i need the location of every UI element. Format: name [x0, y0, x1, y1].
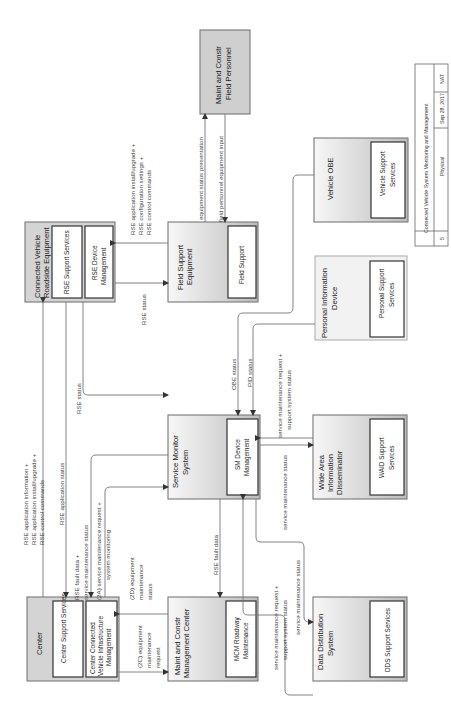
- svg-text:maintenance: maintenance: [137, 564, 144, 600]
- svg-text:Maint and Constr: Maint and Constr: [214, 46, 223, 104]
- svg-text:Personal Information: Personal Information: [320, 268, 329, 338]
- svg-text:support system status: support system status: [281, 600, 288, 660]
- node-rse[interactable]: Connected Vehicle Roadside Equipment RSE…: [25, 222, 115, 302]
- rse-title: Connected Vehicle: [33, 235, 42, 298]
- diagram-title: Connected Vehicle System Monitoring and …: [423, 103, 429, 233]
- rse-title-2: Roadside Equipment: [42, 227, 51, 298]
- node-data-distribution-system[interactable]: Data Distribution System DDS Support Ser…: [313, 597, 407, 681]
- svg-text:DDS Support Services: DDS Support Services: [384, 608, 392, 672]
- title-block: Connected Vehicle System Monitoring and …: [415, 64, 448, 246]
- svg-text:PID status: PID status: [246, 358, 253, 387]
- svg-text:Center Connected: Center Connected: [89, 622, 96, 674]
- svg-text:RSE application install/upgrad: RSE application install/upgrade +: [129, 143, 136, 235]
- svg-text:RSE configuration settings +: RSE configuration settings +: [137, 156, 144, 235]
- svg-text:Center: Center: [35, 632, 44, 655]
- vehicle-support-services[interactable]: [371, 142, 405, 218]
- svg-text:RSE control commands: RSE control commands: [38, 480, 45, 545]
- svg-text:status: status: [146, 583, 153, 600]
- svg-text:request: request: [154, 647, 161, 668]
- svg-text:Information: Information: [326, 454, 335, 492]
- svg-text:RSE application information +: RSE application information +: [22, 463, 29, 545]
- svg-text:RSE application status: RSE application status: [58, 463, 65, 525]
- svg-text:RSE control commands: RSE control commands: [145, 170, 152, 235]
- svg-text:System: System: [181, 450, 190, 475]
- svg-text:Wide Area: Wide Area: [317, 454, 326, 490]
- svg-text:service maintenance request +: service maintenance request +: [272, 585, 279, 670]
- architecture-diagram: Connected Vehicle Roadside Equipment RSE…: [0, 0, 451, 724]
- svg-text:Data Distribution: Data Distribution: [316, 614, 325, 670]
- waid-support-services[interactable]: [370, 419, 404, 495]
- svg-text:RSE fault data +: RSE fault data +: [73, 554, 80, 600]
- svg-text:RSE Support Services: RSE Support Services: [63, 230, 71, 294]
- svg-text:service maintenance status: service maintenance status: [281, 455, 288, 530]
- node-field-support-equipment[interactable]: Field Support Equipment Field Support: [168, 222, 258, 302]
- svg-text:RSE application install/upgrad: RSE application install/upgrade +: [30, 453, 37, 545]
- svg-text:RSE Device: RSE Device: [91, 245, 98, 280]
- svg-text:System: System: [326, 631, 335, 656]
- svg-text:Services: Services: [388, 445, 395, 470]
- svg-text:Management: Management: [243, 438, 251, 476]
- svg-text:Field Support: Field Support: [238, 246, 246, 284]
- svg-text:WAID Support: WAID Support: [378, 437, 386, 478]
- node-mcm[interactable]: Maint and Constr Management Center MCM R…: [168, 597, 258, 681]
- svg-text:MCM Roadway: MCM Roadway: [233, 617, 241, 661]
- node-center[interactable]: Center Center Support Services Center Su…: [27, 593, 119, 681]
- node-field-personnel[interactable]: Maint and Constr Field Personnel: [200, 30, 250, 114]
- svg-text:field personnel equipment inpu: field personnel equipment input: [217, 136, 224, 222]
- svg-text:RSE status: RSE status: [75, 383, 82, 414]
- svg-text:(2A) service maintenance reque: (2A) service maintenance request +: [95, 502, 102, 600]
- view-name: Physical: [439, 157, 445, 176]
- node-personal-information-device[interactable]: Personal Information Device Personal Sup…: [315, 256, 407, 340]
- svg-text:service maintenance request +: service maintenance request +: [276, 353, 283, 438]
- svg-text:Field Personnel: Field Personnel: [224, 47, 233, 100]
- svg-text:Field Support: Field Support: [176, 244, 185, 290]
- diagram-author: NAT: [439, 73, 445, 84]
- svg-text:Maintenance: Maintenance: [242, 622, 249, 659]
- svg-text:Service Monitor: Service Monitor: [171, 435, 180, 488]
- svg-text:Equipment: Equipment: [185, 248, 194, 285]
- svg-text:Management: Management: [100, 247, 108, 285]
- svg-text:Personal Support: Personal Support: [378, 268, 386, 318]
- svg-text:OBE status: OBE status: [230, 359, 237, 390]
- center-support-services[interactable]: [53, 601, 83, 677]
- personal-support-services[interactable]: [370, 261, 404, 337]
- svg-text:Device: Device: [330, 287, 339, 310]
- svg-text:RSE fault data: RSE fault data: [212, 535, 219, 575]
- svg-text:Vehicle OBE: Vehicle OBE: [326, 157, 335, 200]
- svg-text:Disseminator: Disseminator: [335, 450, 344, 495]
- flows-fse-rse: [115, 243, 168, 283]
- svg-text:(2D) equipment: (2D) equipment: [128, 557, 135, 600]
- mcm-roadway-maintenance[interactable]: [226, 601, 256, 677]
- svg-text:Management: Management: [105, 628, 113, 666]
- svg-text:equipment status presentation: equipment status presentation: [197, 137, 204, 220]
- node-service-monitor-system[interactable]: Service Monitor System SM Device Managem…: [168, 415, 260, 499]
- rse-device-management[interactable]: [85, 226, 113, 298]
- svg-text:Maint and Constr: Maint and Constr: [173, 617, 182, 675]
- svg-text:Vehicle Infrastructure: Vehicle Infrastructure: [97, 616, 104, 676]
- svg-text:Management Center: Management Center: [182, 608, 191, 678]
- svg-text:SM Device: SM Device: [234, 439, 241, 470]
- svg-text:service maintenance status: service maintenance status: [82, 525, 89, 600]
- svg-text:system monitoring: system monitoring: [104, 529, 111, 580]
- svg-text:support system status: support system status: [285, 370, 292, 430]
- svg-text:service maintenance status: service maintenance status: [294, 560, 301, 635]
- svg-text:Services: Services: [388, 282, 395, 307]
- diagram-date: Sep 28, 2017: [439, 93, 445, 124]
- svg-text:Vehicle Support: Vehicle Support: [379, 151, 387, 196]
- svg-text:Center Support Services: Center Support Services: [60, 593, 68, 663]
- svg-text:Services: Services: [389, 162, 396, 187]
- flows-waid-sms: [260, 438, 313, 445]
- svg-text:RSE status: RSE status: [140, 294, 147, 325]
- node-vehicle-obe[interactable]: Vehicle OBE Vehicle Support Services: [314, 138, 408, 222]
- svg-text:maintenance: maintenance: [145, 632, 152, 668]
- node-waid[interactable]: Wide Area Information Disseminator WAID …: [313, 415, 407, 499]
- page-number: 5: [439, 237, 445, 240]
- svg-text:(2C) equipment: (2C) equipment: [136, 625, 143, 668]
